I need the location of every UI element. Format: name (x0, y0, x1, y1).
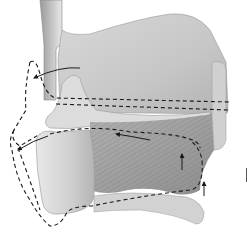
muscle-fibers (90, 114, 214, 195)
anatomical-diagram (0, 0, 247, 234)
edge-tick-mark (246, 168, 247, 182)
